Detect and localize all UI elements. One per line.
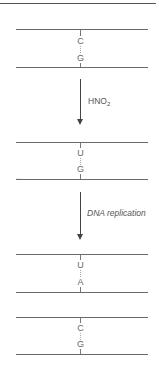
- base-top-2: U: [75, 148, 86, 158]
- arrow-shaft: [80, 79, 81, 121]
- top-border-line: [0, 3, 156, 4]
- base-top-3: U: [75, 260, 86, 270]
- strand-bottom-2: [16, 179, 148, 180]
- base-bottom-2: G: [75, 164, 86, 174]
- arrow-head-icon: [77, 234, 83, 240]
- label-subscript: 2: [107, 101, 110, 107]
- strand-top-3: [16, 254, 148, 255]
- label-main: HNO: [88, 96, 107, 106]
- base-bottom-4: G: [75, 339, 86, 349]
- base-top-4: C: [75, 323, 86, 333]
- strand-top-4: [16, 317, 148, 318]
- step-label-replication: DNA replication: [87, 208, 146, 218]
- label-main: DNA replication: [87, 208, 146, 218]
- strand-bottom-4: [16, 354, 148, 355]
- arrow-shaft: [80, 192, 81, 236]
- base-top-1: C: [75, 36, 86, 46]
- strand-bottom-1: [16, 67, 148, 68]
- hydrogen-bond-dots: [80, 46, 81, 53]
- step-label-hno2: HNO2: [88, 96, 110, 107]
- strand-top-1: [16, 29, 148, 30]
- strand-top-2: [16, 142, 148, 143]
- hydrogen-bond-dots: [80, 270, 81, 277]
- base-bottom-3: A: [75, 277, 86, 287]
- strand-bottom-3: [16, 292, 148, 293]
- strand-end-mark: ···: [16, 175, 22, 181]
- arrow-head-icon: [77, 119, 83, 125]
- base-bottom-1: G: [75, 53, 86, 63]
